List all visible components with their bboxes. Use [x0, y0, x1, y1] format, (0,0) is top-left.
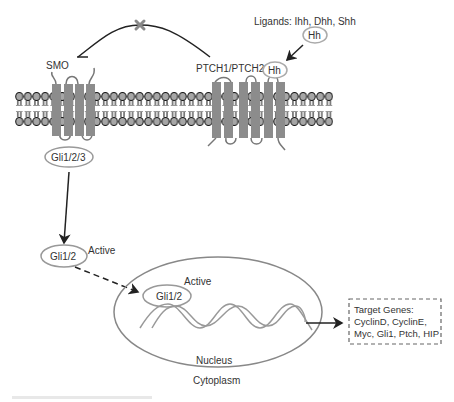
- activation-arrow: [64, 172, 69, 243]
- gli-membrane-label: Gli1/2/3: [51, 152, 86, 163]
- nucleus-label: Nucleus: [196, 355, 232, 366]
- smo-label: SMO: [46, 60, 69, 71]
- inhibition-arrow: [77, 21, 210, 57]
- translocation-arrow: [75, 267, 138, 292]
- gli-nucleus-label: Gli1/2: [156, 291, 183, 302]
- ligands-label: Ligands: Ihh, Dhh, Shh: [254, 16, 356, 27]
- dna-helix: [140, 304, 312, 330]
- hh-bound-label: Hh: [268, 65, 281, 76]
- hedgehog-pathway-diagram: SMO PTCH1/PTCH2 Ligands: Ihh, Dhh, Shh H…: [0, 0, 454, 402]
- ptch-label: PTCH1/PTCH2: [196, 63, 265, 74]
- target-genes-title: Target Genes:: [354, 304, 414, 315]
- ligand-binding-arrow: [287, 45, 303, 60]
- active-nucleus-label: Active: [184, 276, 212, 287]
- cytoplasm-label: Cytoplasm: [193, 375, 240, 386]
- faint-caption: [12, 396, 152, 399]
- hh-free-label: Hh: [308, 30, 321, 41]
- target-genes-line1: CyclinD, CyclinE,: [354, 316, 427, 327]
- target-genes-line2: Myc, Gli1, Ptch, HIP: [354, 328, 439, 339]
- active-cyto-label: Active: [88, 245, 116, 256]
- gli-cyto-label: Gli1/2: [50, 251, 77, 262]
- cell-membrane: [15, 92, 333, 126]
